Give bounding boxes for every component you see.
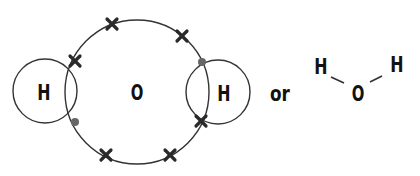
bond-left	[331, 77, 344, 83]
formula-hydrogen-left: H	[314, 54, 327, 79]
formula-oxygen: O	[352, 81, 365, 107]
or-label: or	[270, 81, 290, 107]
structural-formula: H O H	[314, 52, 403, 107]
water-bonding-diagram: H O H or H O H	[0, 0, 420, 176]
dot-icon	[71, 118, 79, 126]
bond-right	[370, 76, 382, 82]
formula-hydrogen-right: H	[390, 52, 403, 77]
hydrogen-left-label: H	[37, 80, 50, 105]
oxygen-label: O	[131, 80, 144, 106]
dot-icon	[198, 58, 206, 66]
cross-icon	[177, 31, 187, 41]
cross-icon	[165, 150, 175, 160]
hydrogen-right-label: H	[217, 81, 230, 106]
